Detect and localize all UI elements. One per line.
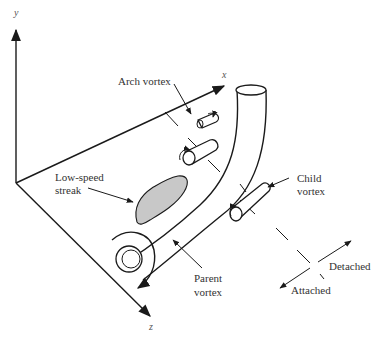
z-axis-label: z xyxy=(148,321,153,332)
arch-vortex-cylinder xyxy=(197,113,218,128)
middle-vortex-cylinder xyxy=(180,140,218,165)
child-vortex-leader xyxy=(268,178,289,187)
x-axis-label: x xyxy=(221,69,227,80)
arch-vortex-label: Arch vortex xyxy=(118,75,171,87)
arch-vortex-leader xyxy=(174,84,191,114)
x-axis xyxy=(16,86,224,183)
detached-label: Detached xyxy=(329,260,371,272)
low-speed-streak-leader xyxy=(88,188,133,202)
attached-label: Attached xyxy=(291,284,331,296)
low-speed-streak-label-1: Low-speed xyxy=(55,171,104,183)
parent-vortex-label-2: vortex xyxy=(194,286,223,298)
detached-arrow xyxy=(318,241,351,262)
parent-vortex-tube xyxy=(112,85,266,288)
vortex-structure-diagram: y x z xyxy=(0,0,379,340)
child-vortex-label-2: vortex xyxy=(297,185,326,197)
low-speed-streak-blob xyxy=(136,176,188,224)
parent-vortex-top-opening xyxy=(236,85,266,95)
parent-vortex-label-1: Parent xyxy=(194,272,222,284)
leader-arrows xyxy=(88,84,289,268)
low-speed-streak-label-2: streak xyxy=(55,184,82,196)
y-axis-label: y xyxy=(13,7,19,18)
child-vortex-label-1: Child xyxy=(297,172,322,184)
